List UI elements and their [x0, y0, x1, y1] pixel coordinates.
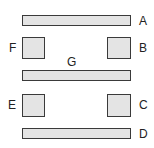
square-b [107, 37, 131, 59]
label-b: B [139, 42, 147, 54]
label-a: A [139, 15, 147, 27]
label-f: F [9, 42, 16, 54]
label-e: E [8, 99, 16, 111]
bar-g [22, 70, 131, 81]
square-e [22, 94, 45, 117]
bar-d [22, 128, 131, 139]
square-c [107, 94, 131, 117]
label-g: G [67, 56, 76, 68]
label-d: D [139, 128, 148, 140]
square-f [22, 37, 45, 59]
bar-a [22, 15, 131, 26]
label-c: C [139, 99, 148, 111]
